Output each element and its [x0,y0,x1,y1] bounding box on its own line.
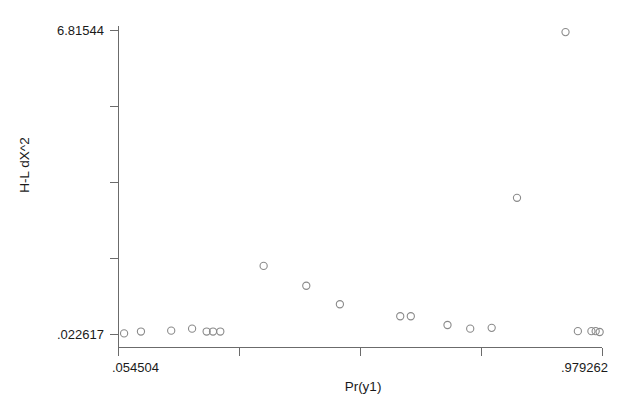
data-point-marker [513,194,520,201]
data-point-marker [121,330,128,337]
x-axis-max-tick-label: .979262 [561,360,608,375]
data-point-marker [188,325,195,332]
data-point-marker [217,328,224,335]
data-point-marker [407,313,414,320]
data-point-marker [260,262,267,269]
scatter-plot-canvas: 6.81544 .022617 .054504 .979262 Pr(y1) H… [0,0,625,410]
data-point-marker [444,321,451,328]
data-point-marker [488,324,495,331]
x-axis-min-tick-label: .054504 [112,360,159,375]
x-axis-title: Pr(y1) [345,379,382,394]
x-axis-ticks [119,348,603,357]
y-axis-min-tick-label: .022617 [57,327,104,342]
data-point-marker [467,325,474,332]
y-axis-ticks [110,31,119,335]
data-point-marker [397,313,404,320]
data-points-group [121,28,604,337]
y-axis-title: H-L dX^2 [17,137,32,192]
data-point-marker [562,28,569,35]
data-point-marker [168,327,175,334]
plot-svg: 6.81544 .022617 .054504 .979262 Pr(y1) H… [0,0,625,410]
data-point-marker [574,328,581,335]
data-point-marker [137,328,144,335]
data-point-marker [336,301,343,308]
y-axis-max-tick-label: 6.81544 [57,23,104,38]
data-point-marker [303,282,310,289]
